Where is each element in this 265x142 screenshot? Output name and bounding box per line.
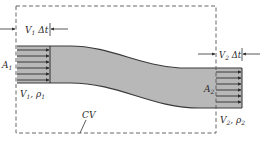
outlet-displacement-label: V2 Δt — [219, 50, 242, 61]
inlet-displacement-label: V1 Δt — [25, 25, 49, 36]
outlet-properties-label: V2, ρ2 — [220, 115, 245, 126]
stream-tube — [17, 46, 242, 108]
inlet-properties-label: V1, ρ1 — [20, 89, 45, 100]
control-volume-leader — [80, 120, 86, 133]
inlet-area-label: A1 — [1, 60, 12, 71]
control-volume-diagram: V1 Δt V2 Δt A1 A2 V1, ρ1 V2, ρ2 CV — [0, 0, 265, 142]
control-volume-label: CV — [82, 110, 97, 120]
